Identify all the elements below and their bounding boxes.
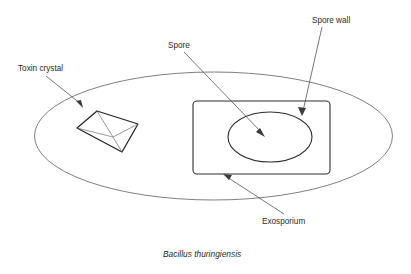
leader-exosporium bbox=[223, 174, 284, 214]
leader-toxin-crystal bbox=[46, 76, 83, 108]
arrowhead-toxin-crystal-icon bbox=[76, 100, 83, 108]
leader-line-toxin-crystal bbox=[46, 76, 81, 104]
diagram-canvas: Toxin crystal Spore Spore wall Exosporiu… bbox=[0, 0, 411, 274]
toxin-crystal-outline bbox=[77, 111, 138, 152]
figure-caption: Bacillus thuringiensis bbox=[163, 249, 242, 259]
label-toxin-crystal: Toxin crystal bbox=[18, 64, 63, 73]
label-spore: Spore bbox=[168, 41, 190, 50]
bacillus-thuringiensis-diagram: Toxin crystal Spore Spore wall Exosporiu… bbox=[0, 0, 411, 274]
leader-line-spore bbox=[184, 52, 262, 133]
leader-spore-wall bbox=[298, 27, 322, 116]
label-spore-wall: Spore wall bbox=[312, 16, 350, 25]
spore-wall-ellipse bbox=[228, 112, 312, 162]
bacterium-outline-ellipse bbox=[35, 72, 393, 200]
leader-line-exosporium bbox=[227, 177, 284, 214]
leader-line-spore-wall bbox=[303, 27, 322, 111]
arrowhead-spore-wall-icon bbox=[298, 107, 306, 116]
label-exosporium: Exosporium bbox=[262, 217, 305, 226]
arrowhead-spore-icon bbox=[256, 128, 265, 137]
leader-spore bbox=[184, 52, 265, 137]
toxin-crystal-shape bbox=[77, 111, 138, 152]
